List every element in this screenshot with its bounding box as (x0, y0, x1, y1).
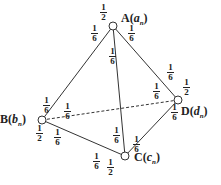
probability-a-self: 12 (100, 3, 107, 21)
probability-c-to-d: 16 (133, 135, 140, 153)
probability-b-to-d: 16 (64, 102, 71, 120)
edge-bd (42, 100, 178, 120)
vertex-label-d: D(dn) (181, 104, 208, 120)
probability-a-to-b: 16 (91, 24, 98, 42)
probability-d-to-a: 16 (167, 63, 174, 81)
probability-d-to-c: 16 (171, 103, 178, 121)
probability-b-to-a: 16 (43, 96, 50, 114)
probability-a-to-c: 16 (109, 47, 116, 65)
vertex-label-b: B(bn) (0, 112, 26, 128)
edge-ab (42, 26, 113, 120)
probability-d-self: 12 (183, 78, 190, 96)
vertex-node-a (109, 22, 117, 30)
tetrahedron-diagram: A(an) B(bn) C(cn) D(dn) 1216161612161616… (0, 0, 221, 185)
probability-c-to-b: 16 (93, 152, 100, 170)
probability-c-self: 12 (107, 158, 114, 176)
probability-c-to-a: 16 (113, 126, 120, 144)
probability-b-self: 12 (36, 124, 43, 142)
probability-d-to-b: 16 (153, 82, 160, 100)
vertex-node-c (121, 152, 129, 160)
probability-b-to-c: 16 (54, 128, 61, 146)
probability-a-to-d: 16 (128, 24, 135, 42)
